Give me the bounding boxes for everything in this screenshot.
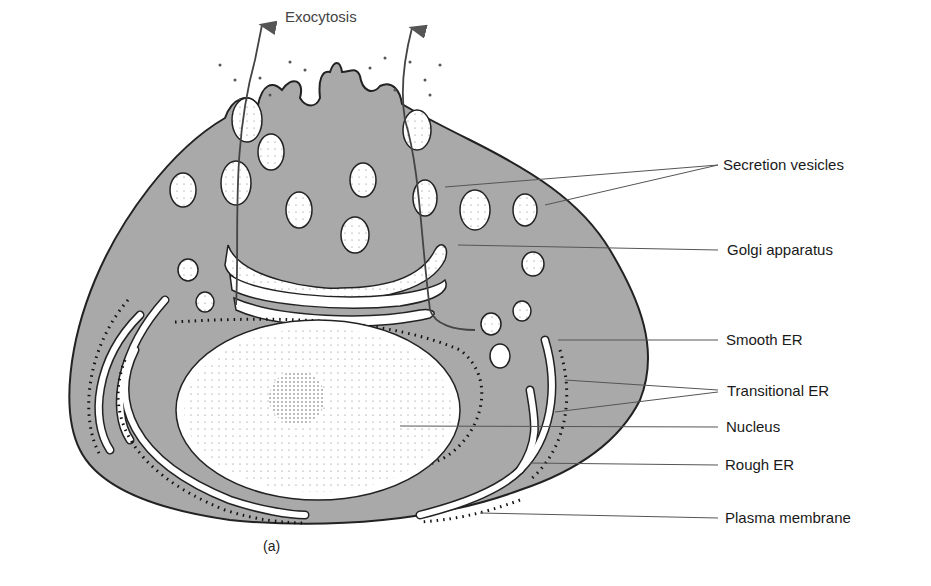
label-plasma-membrane: Plasma membrane <box>725 509 851 527</box>
figure-caption: (a) <box>263 538 280 554</box>
label-transitional-er: Transitional ER <box>727 382 829 400</box>
cell-diagram <box>0 0 931 586</box>
label-secretion-vesicles: Secretion vesicles <box>723 156 844 174</box>
nucleolus <box>269 371 325 425</box>
label-smooth-er: Smooth ER <box>726 331 803 349</box>
label-nucleus: Nucleus <box>726 418 780 436</box>
label-rough-er: Rough ER <box>725 456 794 474</box>
label-golgi-apparatus: Golgi apparatus <box>727 241 833 259</box>
exocytosis-label: Exocytosis <box>285 8 357 25</box>
